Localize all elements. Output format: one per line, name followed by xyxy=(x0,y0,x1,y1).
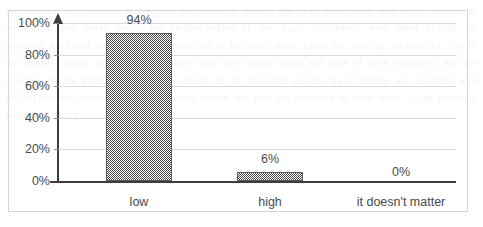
y-tick-40 xyxy=(54,118,59,119)
y-tick-80 xyxy=(54,55,59,56)
bar-low[interactable] xyxy=(106,33,172,182)
y-axis-label-40: 40% xyxy=(25,111,50,125)
y-axis-label-80: 80% xyxy=(25,48,50,62)
x-axis-baseline xyxy=(50,181,456,183)
gridline-100 xyxy=(58,23,456,24)
chart-frame: 100% 80% 60% 40% 20% 0% 94% 6% 0% low hi… xyxy=(8,10,468,212)
category-label-high: high xyxy=(258,195,282,209)
y-axis-label-0: 0% xyxy=(32,174,50,188)
y-axis-label-100: 100% xyxy=(18,16,50,30)
plot-area: 100% 80% 60% 40% 20% 0% 94% 6% 0% low hi… xyxy=(58,23,456,181)
y-tick-100 xyxy=(54,23,59,24)
y-tick-20 xyxy=(54,149,59,150)
y-axis-label-20: 20% xyxy=(25,142,50,156)
category-label-it-doesnt-matter: it doesn't matter xyxy=(357,195,446,209)
bar-high[interactable] xyxy=(237,172,303,182)
y-axis-label-60: 60% xyxy=(25,79,50,93)
bar-value-low: 94% xyxy=(126,13,151,27)
y-tick-60 xyxy=(54,86,59,87)
category-label-low: low xyxy=(130,195,149,209)
y-axis-line xyxy=(57,23,59,182)
bar-value-high: 6% xyxy=(261,152,279,166)
bar-value-it-doesnt-matter: 0% xyxy=(392,165,410,179)
